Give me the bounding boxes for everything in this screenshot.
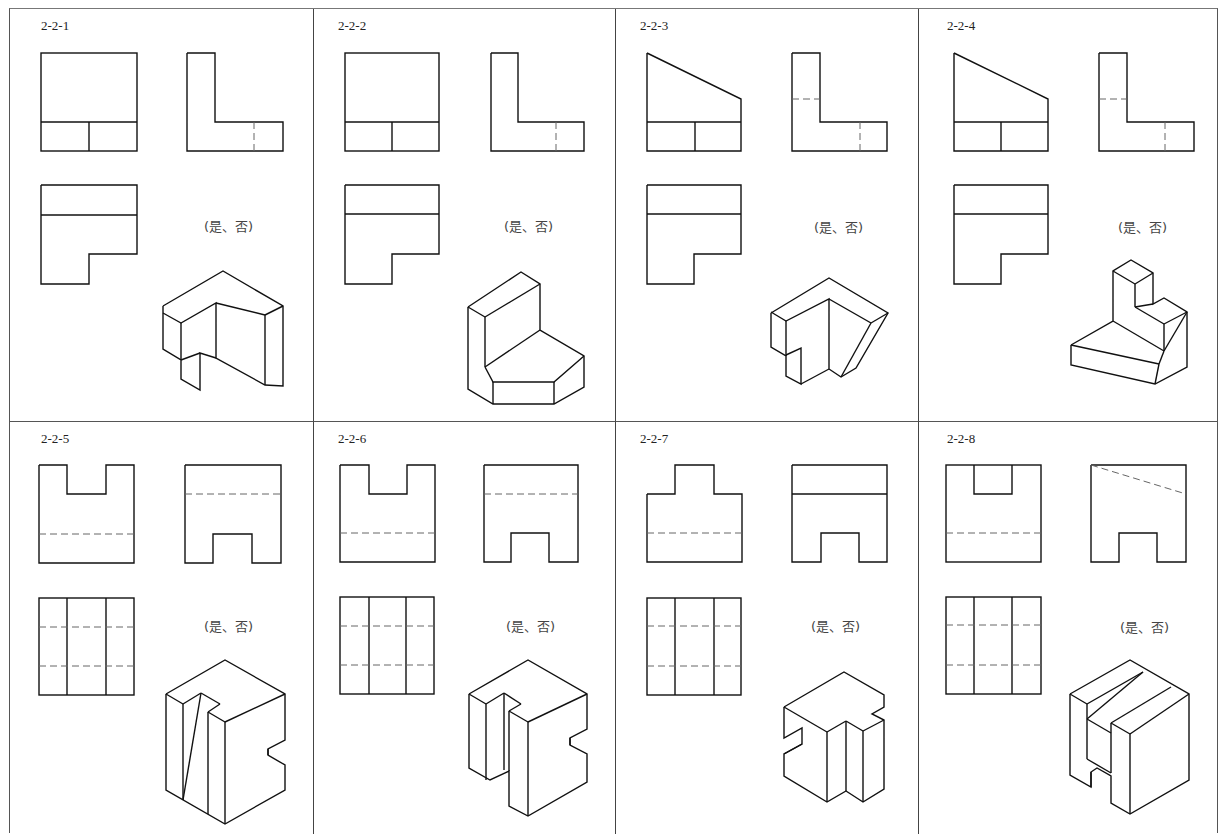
orthographic-and-isometric-drawing (314, 9, 616, 422)
orthographic-and-isometric-drawing (10, 422, 314, 834)
problem-cell-2-2-6: 2-2-6 (是、否) (314, 422, 616, 834)
problem-cell-2-2-4: 2-2-4 (是、否) (919, 9, 1217, 422)
answer-choice-yes-no[interactable]: (是、否) (506, 616, 555, 635)
orthographic-and-isometric-drawing (919, 9, 1217, 422)
orthographic-and-isometric-drawing (314, 422, 616, 834)
orthographic-and-isometric-drawing (919, 422, 1217, 834)
orthographic-and-isometric-drawing (10, 9, 314, 422)
problem-cell-2-2-7: 2-2-7 (是、否) (616, 422, 919, 834)
answer-choice-yes-no[interactable]: (是、否) (204, 616, 253, 635)
answer-choice-yes-no[interactable]: (是、否) (504, 216, 553, 235)
problem-cell-2-2-5: 2-2-5 (是、否) (10, 422, 314, 834)
worksheet-frame: 2-2-1 (是、否) 2-2-2 (9, 8, 1218, 833)
answer-choice-yes-no[interactable]: (是、否) (811, 616, 860, 635)
problem-cell-2-2-1: 2-2-1 (是、否) (10, 9, 314, 422)
orthographic-and-isometric-drawing (616, 9, 919, 422)
answer-choice-yes-no[interactable]: (是、否) (814, 217, 863, 236)
answer-choice-yes-no[interactable]: (是、否) (1120, 617, 1169, 636)
problem-cell-2-2-3: 2-2-3 (是、否) (616, 9, 919, 422)
problem-cell-2-2-2: 2-2-2 (是、否) (314, 9, 616, 422)
orthographic-and-isometric-drawing (616, 422, 919, 834)
problem-cell-2-2-8: 2-2-8 (919, 422, 1217, 834)
answer-choice-yes-no[interactable]: (是、否) (204, 216, 253, 235)
answer-choice-yes-no[interactable]: (是、否) (1118, 217, 1167, 236)
